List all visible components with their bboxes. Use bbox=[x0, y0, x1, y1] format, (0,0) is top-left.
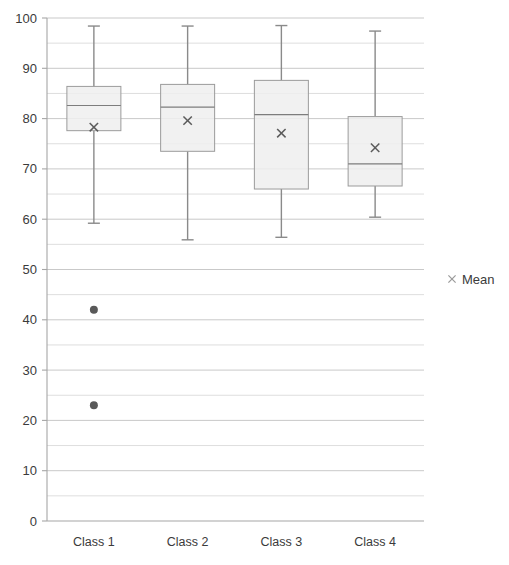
y-axis-tick-label: 70 bbox=[23, 161, 37, 176]
box-series bbox=[67, 26, 402, 240]
box-iqr bbox=[348, 117, 402, 186]
chart-legend: Mean bbox=[448, 272, 494, 287]
x-axis-category-label: Class 2 bbox=[167, 535, 209, 549]
y-axis-tick-label: 10 bbox=[23, 463, 37, 478]
x-axis-category-label: Class 3 bbox=[261, 535, 303, 549]
y-axis-tick-labels: 0102030405060708090100 bbox=[15, 11, 37, 529]
outlier-points bbox=[90, 306, 98, 410]
y-axis-tick-label: 0 bbox=[30, 514, 37, 529]
y-axis-tick-label: 20 bbox=[23, 413, 37, 428]
y-axis-tick-label: 50 bbox=[23, 262, 37, 277]
chart-canvas: 0102030405060708090100 Class 1Class 2Cla… bbox=[0, 0, 509, 565]
box-plot-chart: 0102030405060708090100 Class 1Class 2Cla… bbox=[0, 0, 509, 565]
outlier-point bbox=[90, 306, 98, 314]
box-plot-item bbox=[254, 26, 308, 238]
box-iqr bbox=[67, 86, 121, 130]
y-axis-tick-label: 30 bbox=[23, 363, 37, 378]
outlier-point bbox=[90, 401, 98, 409]
y-axis-tick-label: 40 bbox=[23, 312, 37, 327]
y-axis-tick-label: 80 bbox=[23, 111, 37, 126]
y-axis-tick-label: 90 bbox=[23, 61, 37, 76]
box-iqr bbox=[254, 80, 308, 189]
x-axis-category-labels: Class 1Class 2Class 3Class 4 bbox=[73, 535, 396, 549]
box-plot-item bbox=[161, 26, 215, 240]
x-axis-category-label: Class 4 bbox=[354, 535, 396, 549]
legend-entry-label: Mean bbox=[462, 272, 495, 287]
y-axis-tick-label: 100 bbox=[15, 11, 37, 26]
y-axis-tick-label: 60 bbox=[23, 212, 37, 227]
box-iqr bbox=[161, 84, 215, 151]
box-plot-item bbox=[348, 31, 402, 217]
x-axis-category-label: Class 1 bbox=[73, 535, 115, 549]
